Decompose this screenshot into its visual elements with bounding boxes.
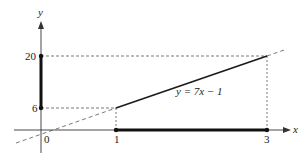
y-axis-label: y: [37, 6, 43, 18]
tick-label-1: 1: [114, 133, 120, 145]
line-extension-right: [267, 49, 287, 56]
y-axis-arrow-icon: [38, 21, 44, 29]
tick-label-6: 6: [32, 102, 38, 114]
function-diagram: y x 20 6 0 1 3 y = 7x − 1: [0, 0, 300, 158]
point-y20: [39, 54, 43, 58]
equation-label: y = 7x − 1: [175, 85, 223, 97]
tick-label-origin: 0: [44, 133, 50, 145]
point-x3: [265, 128, 269, 132]
line-extension-left: [16, 108, 116, 143]
x-axis-arrow-icon: [283, 127, 291, 133]
x-axis-label: x: [292, 123, 298, 135]
tick-label-3: 3: [264, 133, 270, 145]
point-x1: [114, 128, 118, 132]
tick-label-20: 20: [25, 50, 37, 62]
function-segment: [116, 56, 267, 108]
point-y6: [39, 106, 43, 110]
